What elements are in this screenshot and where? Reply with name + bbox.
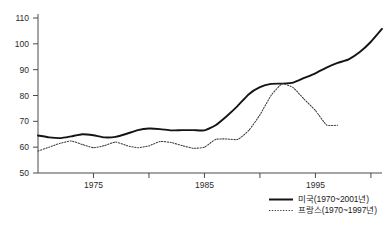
chart-container: 5060708090100110197519851995 미국(1970~200… — [0, 0, 391, 227]
y-tick-label: 110 — [15, 13, 29, 23]
y-tick-label: 70 — [20, 116, 30, 126]
chart-plot: 5060708090100110197519851995 — [0, 0, 391, 227]
legend-item-usa: 미국(1970~2001년) — [268, 194, 388, 205]
x-tick-label: 1975 — [84, 180, 103, 190]
legend-swatch-solid-line-icon — [268, 194, 294, 205]
series-group — [38, 29, 382, 151]
y-tick-label: 60 — [20, 142, 30, 152]
y-tick-label: 100 — [15, 39, 29, 49]
chart-legend: 미국(1970~2001년) 프랑스(1970~1997년) — [268, 194, 388, 216]
series-line-france — [38, 84, 338, 151]
x-tick-label: 1985 — [195, 180, 214, 190]
legend-label-france: 프랑스(1970~1997년) — [298, 205, 377, 216]
y-tick-label: 50 — [20, 168, 30, 178]
series-line-usa — [38, 29, 382, 138]
y-tick-label: 90 — [20, 65, 30, 75]
y-tick-label: 80 — [20, 91, 30, 101]
legend-label-usa: 미국(1970~2001년) — [298, 194, 369, 205]
axes-group: 5060708090100110197519851995 — [15, 13, 382, 190]
legend-item-france: 프랑스(1970~1997년) — [268, 205, 388, 216]
x-tick-label: 1995 — [306, 180, 325, 190]
legend-swatch-dotted-line-icon — [268, 205, 294, 216]
